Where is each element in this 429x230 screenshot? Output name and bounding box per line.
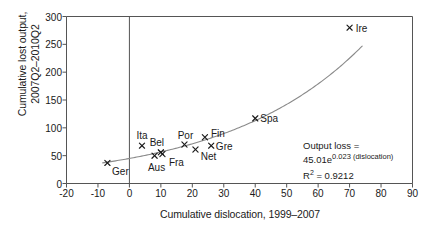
annotation-r-squared: R2 = 0.9212: [303, 169, 393, 183]
annotation-equation-prefix: 45.01e: [303, 154, 332, 165]
r-squared-exponent: 2: [310, 169, 314, 176]
data-point-marker: [209, 143, 214, 148]
r-squared-symbol: R: [303, 170, 310, 181]
regression-annotation: Output loss = 45.01e0.023 (dislocation) …: [303, 139, 393, 183]
annotation-equation-exponent: 0.023 (dislocation): [332, 151, 393, 160]
x-axis-ticks: [67, 184, 413, 188]
x-axis-title: Cumulative dislocation, 1999–2007: [66, 208, 414, 220]
x-axis-tick-label: 90: [393, 188, 429, 199]
annotation-line-2: 45.01e0.023 (dislocation): [303, 153, 393, 167]
r-squared-value: = 0.9212: [316, 170, 353, 181]
data-point-marker: [139, 143, 144, 148]
data-point-marker: [347, 25, 352, 30]
data-point-marker: [160, 151, 165, 156]
chart-figure: 050100150200250300 -20-10010203040506070…: [0, 0, 429, 230]
data-point-marker: [202, 135, 207, 140]
y-axis-ticks: [63, 17, 67, 184]
y-axis-title: Cumulative lost output, 2007Q2–2010Q2: [16, 0, 42, 154]
data-point-marker: [193, 147, 198, 152]
x-axis-tick-labels: -20-100102030405060708090: [0, 188, 429, 204]
